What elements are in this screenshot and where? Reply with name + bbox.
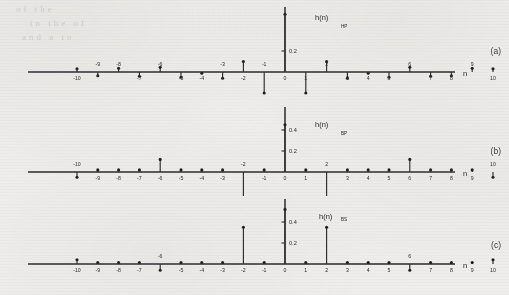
stem-head-c-n-10: [75, 258, 78, 261]
stem-head-b-n10: [491, 176, 494, 179]
x-tick-label-a-n-6: -6: [158, 61, 163, 67]
x-tick-label-a-n7: 7: [429, 75, 432, 81]
x-tick-label-a-n6: 6: [408, 61, 411, 67]
x-tick-label-a-n2: 2: [325, 61, 328, 67]
stem-head-c-n3: [346, 261, 349, 264]
x-tick-label-b-n8: 8: [450, 175, 453, 181]
stem-head-c-n4: [367, 261, 370, 264]
x-tick-label-b-n-5: -5: [179, 175, 184, 181]
x-tick-label-c-n2: 2: [325, 267, 328, 273]
stem-head-b-n0: [283, 123, 286, 126]
panel-label-c: (c): [491, 240, 501, 250]
stem-head-c-n0: [283, 208, 286, 211]
x-tick-label-c-n5: 5: [388, 267, 391, 273]
x-tick-label-b-n-6: -6: [158, 175, 163, 181]
x-tick-label-b-n-3: -3: [220, 175, 225, 181]
x-tick-label-c-n3: 3: [346, 267, 349, 273]
x-tick-label-b-n0: 0: [284, 175, 287, 181]
stem-head-b-n4: [367, 168, 370, 171]
stem-head-b-n-7: [138, 168, 141, 171]
x-tick-label-c-n-6: -6: [158, 253, 163, 259]
stem-head-b-n9: [471, 168, 474, 171]
stem-plot-bandstop: 0.40.2h(n)BSn-10-9-8-7-6-5-4-3-2-1012345…: [0, 192, 509, 295]
x-tick-label-a-n9: 9: [471, 61, 474, 67]
stem-head-b-n-3: [221, 168, 224, 171]
stem-head-b-n-5: [179, 168, 182, 171]
x-tick-label-a-n-8: -8: [116, 61, 121, 67]
stem-head-a-n-8: [117, 67, 120, 70]
x-tick-label-b-n6: 6: [408, 175, 411, 181]
x-tick-label-b-n9: 9: [471, 175, 474, 181]
stem-head-b-n-6: [159, 158, 162, 161]
series-subscript-c: BS: [341, 217, 347, 222]
x-tick-label-c-n0: 0: [284, 267, 287, 273]
x-tick-label-a-n-5: -5: [179, 75, 184, 81]
stem-head-a-n-10: [75, 67, 78, 70]
x-tick-label-a-n1: 1: [304, 75, 307, 81]
stem-head-c-n7: [429, 261, 432, 264]
x-axis-label-a: n: [463, 69, 467, 78]
x-tick-label-b-n7: 7: [429, 175, 432, 181]
stem-head-a-n-9: [96, 74, 99, 77]
stem-head-c-n-4: [200, 261, 203, 264]
x-tick-label-c-n-3: -3: [220, 267, 225, 273]
stem-head-c-n-7: [138, 261, 141, 264]
y-tick-label-a-0: 0.2: [289, 48, 297, 54]
x-tick-label-b-n-2: -2: [241, 161, 246, 167]
stem-head-c-n5: [387, 261, 390, 264]
y-tick-label-c-0: 0.4: [289, 219, 297, 225]
stem-head-a-n1: [304, 91, 307, 94]
x-tick-label-b-n-4: -4: [199, 175, 204, 181]
plot-canvas-c: 0.40.2h(n)BSn-10-9-8-7-6-5-4-3-2-1012345…: [0, 192, 509, 295]
stem-head-c-n10: [491, 258, 494, 261]
y-tick-label-b-1: 0.2: [289, 148, 297, 154]
series-subscript-b: BP: [341, 131, 347, 136]
series-label-c: h(n): [319, 212, 333, 221]
series-subscript-a: HP: [341, 24, 347, 29]
x-tick-label-b-n1: 1: [304, 175, 307, 181]
x-tick-label-c-n7: 7: [429, 267, 432, 273]
stem-head-b-n-9: [96, 168, 99, 171]
y-tick-label-c-1: 0.2: [289, 240, 297, 246]
panel-label-b: (b): [491, 146, 501, 156]
stem-plot-highpass: 0.2h(n)HPn-10-9-8-7-6-5-4-3-2-1012345678…: [0, 0, 509, 100]
y-tick-label-b-0: 0.4: [289, 127, 297, 133]
stem-head-b-n-4: [200, 168, 203, 171]
x-tick-label-c-n-2: -2: [241, 267, 246, 273]
stem-head-b-n7: [429, 168, 432, 171]
x-tick-label-a-n0: 0: [284, 75, 287, 81]
x-axis-label-b: n: [463, 169, 467, 178]
stem-head-c-n-2: [242, 226, 245, 229]
plot-canvas-a: 0.2h(n)HPn-10-9-8-7-6-5-4-3-2-1012345678…: [0, 0, 509, 100]
stem-head-c-n-8: [117, 261, 120, 264]
x-tick-label-c-n-1: -1: [262, 267, 267, 273]
stem-head-a-n10: [491, 67, 494, 70]
x-tick-label-c-n-9: -9: [95, 267, 100, 273]
stem-head-c-n-9: [96, 261, 99, 264]
panel-a: (a) 0.2h(n)HPn-10-9-8-7-6-5-4-3-2-101234…: [0, 0, 509, 100]
x-tick-label-a-n-2: -2: [241, 75, 246, 81]
stem-head-b-n-1: [263, 168, 266, 171]
stem-head-c-n1: [304, 261, 307, 264]
panel-label-a: (a): [491, 46, 501, 56]
stem-head-a-n-3: [221, 77, 224, 80]
x-tick-label-b-n-10: -10: [73, 161, 81, 167]
x-tick-label-a-n3: 3: [346, 75, 349, 81]
stem-head-b-n5: [387, 168, 390, 171]
stem-head-c-n-1: [263, 261, 266, 264]
x-tick-label-b-n2: 2: [325, 161, 328, 167]
x-tick-label-c-n1: 1: [304, 267, 307, 273]
x-axis-label-c: n: [463, 261, 467, 270]
stem-head-c-n2: [325, 226, 328, 229]
stem-head-c-n9: [471, 261, 474, 264]
stem-head-c-n-6: [159, 269, 162, 272]
x-tick-label-c-n6: 6: [408, 253, 411, 259]
x-tick-label-a-n-9: -9: [95, 61, 100, 67]
panel-c: (c) 0.40.2h(n)BSn-10-9-8-7-6-5-4-3-2-101…: [0, 192, 509, 295]
x-tick-label-c-n8: 8: [450, 267, 453, 273]
x-tick-label-b-n-9: -9: [95, 175, 100, 181]
x-tick-label-c-n4: 4: [367, 267, 370, 273]
plot-canvas-b: 0.40.2h(n)BPn-10-9-8-7-6-5-4-3-2-1012345…: [0, 96, 509, 196]
x-tick-label-b-n10: 10: [490, 161, 496, 167]
x-tick-label-b-n-7: -7: [137, 175, 142, 181]
